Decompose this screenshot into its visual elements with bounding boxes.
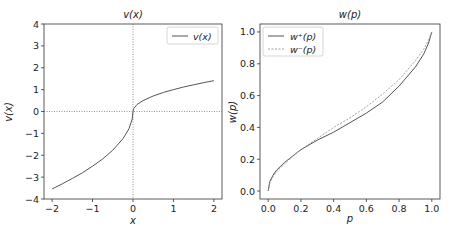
legend-label: w⁺(p) [290, 31, 316, 42]
y-tick-label: 4 [33, 19, 39, 30]
y-tick-label: 3 [33, 40, 39, 51]
value-function-plot: v(x) −2−1012 −4−3−2−101234 x v(x) v(x) [3, 9, 222, 226]
x-tick-label: 0.4 [326, 203, 341, 214]
y-tick-label: 0.0 [240, 186, 255, 197]
plot-title: v(x) [123, 9, 143, 20]
y-tick-label: 0.2 [240, 154, 255, 165]
y-tick-label: 0.6 [240, 90, 255, 101]
x-axis-label: x [129, 215, 136, 226]
y-tick-label: 2 [33, 62, 39, 73]
x-axis-ticks: −2−1012 [45, 199, 217, 214]
y-tick-label: 0.4 [240, 122, 255, 133]
x-axis-ticks: 0.00.20.40.60.81.0 [261, 199, 440, 214]
y-axis-label: v(x) [3, 102, 14, 122]
x-tick-label: −2 [45, 203, 59, 214]
y-axis-label: w(p) [227, 101, 238, 123]
x-tick-label: −1 [86, 203, 100, 214]
y-tick-label: −4 [25, 194, 39, 205]
x-tick-label: 1.0 [424, 203, 439, 214]
x-tick-label: 0.2 [293, 203, 308, 214]
y-axis-ticks: 0.00.20.40.60.81.0 [240, 26, 260, 196]
x-tick-label: 0.6 [359, 203, 374, 214]
x-tick-label: 2 [211, 203, 217, 214]
x-axis-label: p [346, 213, 353, 224]
legend: v(x) [167, 27, 218, 44]
x-tick-label: 0.8 [392, 203, 407, 214]
y-tick-label: −3 [25, 172, 39, 183]
x-tick-label: 0 [130, 203, 136, 214]
x-tick-label: 1 [170, 203, 176, 214]
y-tick-label: −1 [25, 128, 39, 139]
y-tick-label: 1 [33, 84, 39, 95]
y-tick-label: −2 [25, 150, 39, 161]
y-axis-ticks: −4−3−2−101234 [25, 19, 44, 205]
legend: w⁺(p) w⁻(p) [263, 27, 323, 56]
figure: v(x) −2−1012 −4−3−2−101234 x v(x) v(x) w… [0, 0, 457, 237]
y-tick-label: 1.0 [240, 26, 255, 37]
weighting-function-plot: w(p) 0.00.20.40.60.81.0 0.00.20.40.60.81… [227, 9, 440, 224]
plot-title: w(p) [339, 9, 361, 20]
x-tick-label: 0.0 [261, 203, 276, 214]
y-tick-label: 0.8 [240, 58, 255, 69]
legend-label: v(x) [193, 31, 212, 42]
y-tick-label: 0 [33, 106, 39, 117]
legend-label: w⁻(p) [290, 44, 316, 55]
